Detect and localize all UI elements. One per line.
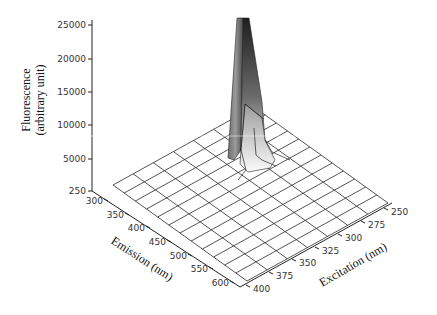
z-axis-title: Fluorescence (arbitrary unit) <box>19 65 47 136</box>
emission-tick-400: 400 <box>128 223 145 233</box>
z-tick-250: 250 <box>69 186 86 196</box>
surface-plot: 250 5000 10000 15000 20000 25000 Fluores… <box>0 0 437 315</box>
emission-tick-600: 600 <box>212 278 229 288</box>
z-axis-title-line2: (arbitrary unit) <box>33 65 47 136</box>
z-tick-15000: 15000 <box>57 87 86 97</box>
emission-tick-500: 500 <box>170 251 187 261</box>
z-tick-5000: 5000 <box>63 154 86 164</box>
excitation-tick-375: 375 <box>276 271 293 281</box>
emission-tick-350: 350 <box>107 210 124 220</box>
excitation-tick-350: 350 <box>299 258 316 268</box>
emission-tick-550: 550 <box>191 264 208 274</box>
z-axis-title-line1: Fluorescence <box>19 68 33 131</box>
excitation-tick-275: 275 <box>368 220 385 230</box>
excitation-tick-300: 300 <box>345 233 362 243</box>
z-tick-25000: 25000 <box>57 20 86 30</box>
excitation-tick-325: 325 <box>322 246 339 256</box>
z-tick-20000: 20000 <box>57 54 86 64</box>
z-axis: 250 5000 10000 15000 20000 25000 <box>57 20 92 196</box>
emission-tick-300: 300 <box>86 196 103 206</box>
excitation-tick-250: 250 <box>391 207 408 217</box>
emission-tick-450: 450 <box>149 237 166 247</box>
z-tick-10000: 10000 <box>57 120 86 130</box>
excitation-tick-400: 400 <box>253 284 270 294</box>
